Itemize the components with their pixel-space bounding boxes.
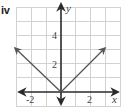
y-axis-label: y [65,2,71,14]
x-axis-label: x [111,93,117,105]
y-tick-4: 4 [52,30,57,41]
y-tick-2: 2 [52,59,57,70]
x-tick-neg2: -2 [26,94,34,105]
curve-left-branch [15,48,61,92]
curve-right-branch [61,48,105,92]
graph: 4 2 -2 2 y x [0,0,127,111]
x-tick-2: 2 [87,94,92,105]
